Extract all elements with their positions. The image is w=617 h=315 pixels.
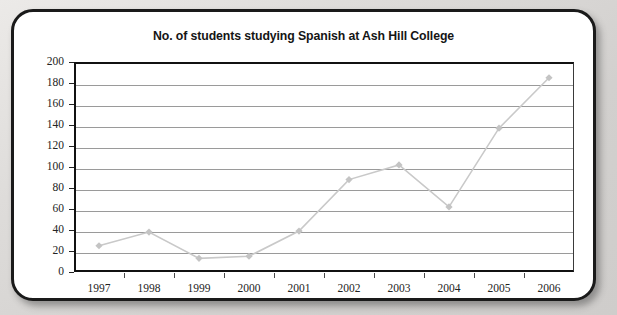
data-point-marker (95, 242, 102, 249)
x-axis-tick-label: 2002 (324, 282, 374, 294)
page-background: No. of students studying Spanish at Ash … (0, 0, 617, 315)
x-axis-tick-mark (324, 273, 325, 278)
y-axis-tick-label: 100 (30, 161, 64, 172)
y-axis-tick-label: 60 (30, 203, 64, 214)
x-axis-tick-label: 1998 (124, 282, 174, 294)
x-axis-tick-label: 1999 (174, 282, 224, 294)
x-axis-tick-mark (374, 273, 375, 278)
x-axis-tick-label: 2005 (474, 282, 524, 294)
x-axis-tick-mark (274, 273, 275, 278)
x-axis-tick-mark (224, 273, 225, 278)
y-axis-tick-label: 0 (30, 266, 64, 277)
series-line (99, 78, 549, 259)
y-axis-tick-label: 140 (30, 119, 64, 130)
data-series-line (74, 62, 574, 272)
y-axis-tick-label: 180 (30, 77, 64, 88)
x-axis-tick-mark (524, 273, 525, 278)
x-axis-tick-label: 2006 (524, 282, 574, 294)
data-point-marker (145, 229, 152, 236)
y-axis-tick-label: 40 (30, 224, 64, 235)
y-axis-tick-label: 160 (30, 98, 64, 109)
x-axis-tick-label: 2001 (274, 282, 324, 294)
y-axis-tick-label: 200 (30, 56, 64, 67)
y-axis-tick-label: 20 (30, 245, 64, 256)
x-axis-tick-mark (474, 273, 475, 278)
y-axis-tick-mark (69, 272, 74, 273)
x-axis-tick-mark (174, 273, 175, 278)
data-point-marker (245, 253, 252, 260)
y-axis-tick-label: 80 (30, 182, 64, 193)
plot-wrapper: 020406080100120140160180200 199719981999… (0, 0, 617, 315)
data-point-marker (195, 255, 202, 262)
y-axis-tick-label: 120 (30, 140, 64, 151)
x-axis-tick-label: 2004 (424, 282, 474, 294)
x-axis-tick-label: 2000 (224, 282, 274, 294)
x-axis-tick-mark (124, 273, 125, 278)
x-axis-tick-label: 2003 (374, 282, 424, 294)
x-axis-tick-mark (424, 273, 425, 278)
x-axis-tick-label: 1997 (74, 282, 124, 294)
